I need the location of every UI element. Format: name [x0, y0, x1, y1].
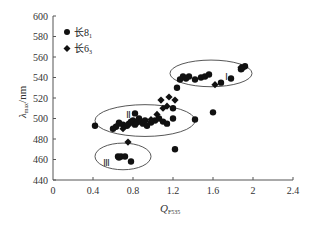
circle-marker-icon: [206, 71, 212, 77]
circle-marker-icon: [128, 158, 134, 164]
y-tick-label: 480: [33, 134, 48, 145]
x-axis-title: QF535: [160, 202, 180, 215]
circle-marker-icon: [172, 146, 178, 152]
legend-label-chang6: 长63: [74, 43, 92, 55]
y-tick-label: 500: [33, 113, 48, 124]
region-label-1: Ⅰ: [225, 71, 228, 82]
circle-marker-icon: [132, 110, 138, 116]
y-tick-label: 600: [33, 11, 48, 22]
x-tick-label: 0: [51, 185, 56, 196]
circle-marker-icon: [210, 109, 216, 115]
legend-label-chang8: 长81: [74, 27, 92, 39]
scatter-chart: 440460480500520540560580600 00.40.81.21.…: [0, 0, 311, 226]
y-axis-title: λmax/nm: [16, 85, 29, 119]
diamond-marker-icon: [165, 93, 172, 100]
region-label-3: Ⅲ: [103, 157, 110, 168]
legend-circle-icon: [64, 29, 70, 35]
circle-marker-icon: [170, 105, 176, 111]
legend: 长81 长63: [64, 27, 93, 55]
circle-marker-icon: [92, 122, 98, 128]
circle-marker-icon: [218, 79, 224, 85]
circle-marker-icon: [186, 73, 192, 79]
y-tick-label: 460: [33, 154, 48, 165]
circle-marker-icon: [170, 115, 176, 121]
y-tick-label: 540: [33, 72, 48, 83]
axes: 440460480500520540560580600 00.40.81.21.…: [33, 11, 299, 197]
legend-diamond-icon: [64, 45, 71, 52]
diamond-marker-icon: [157, 96, 164, 103]
circle-marker-icon: [174, 85, 180, 91]
x-tick-label: 0.8: [127, 185, 140, 196]
x-tick-label: 1.2: [167, 185, 180, 196]
y-tick-label: 440: [33, 175, 48, 186]
diamond-marker-icon: [124, 138, 131, 145]
circle-marker-icon: [228, 75, 234, 81]
y-tick-label: 520: [33, 93, 48, 104]
x-tick-label: 0.4: [87, 185, 100, 196]
y-tick-label: 580: [33, 31, 48, 42]
y-tick-label: 560: [33, 52, 48, 63]
x-tick-label: 1.6: [207, 185, 220, 196]
x-tick-label: 2.4: [287, 185, 300, 196]
circle-marker-icon: [122, 153, 128, 159]
diamond-marker-icon: [171, 96, 178, 103]
x-tick-label: 2: [251, 185, 256, 196]
circle-marker-icon: [192, 116, 198, 122]
circle-marker-icon: [192, 76, 198, 82]
circle-marker-icon: [164, 120, 170, 126]
diamond-marker-icon: [211, 81, 218, 88]
